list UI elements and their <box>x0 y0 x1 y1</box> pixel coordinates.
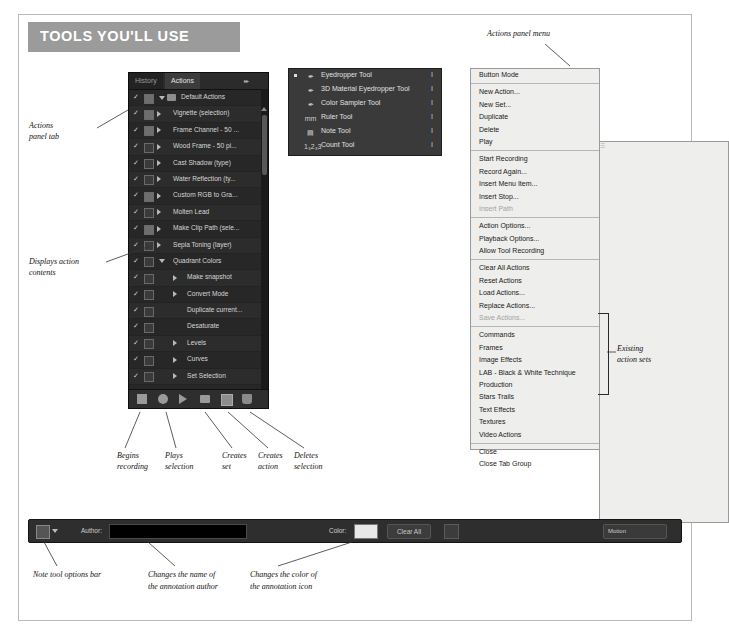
dialog-toggle-box[interactable] <box>144 339 154 349</box>
menu-item[interactable]: Duplicate <box>471 111 599 123</box>
actions-panel-toolbar[interactable] <box>129 389 268 408</box>
action-row[interactable]: ✓Desaturate <box>129 319 268 335</box>
dialog-toggle-box[interactable] <box>144 372 154 382</box>
tool-menu-item[interactable]: mmRuler ToolI <box>289 111 441 125</box>
record-circle-icon[interactable] <box>158 394 168 404</box>
expand-triangle-icon[interactable] <box>157 242 161 248</box>
chevron-down-icon[interactable] <box>52 529 58 533</box>
menu-item[interactable]: Load Actions... <box>471 287 599 299</box>
action-toggle-checkmark[interactable]: ✓ <box>132 306 140 314</box>
dialog-toggle-box[interactable] <box>144 175 154 185</box>
expand-triangle-icon[interactable] <box>173 373 177 379</box>
action-toggle-checkmark[interactable]: ✓ <box>132 126 140 134</box>
action-row[interactable]: ✓Levels <box>129 336 268 352</box>
menu-item[interactable]: Stars Trails <box>471 391 599 403</box>
action-toggle-checkmark[interactable]: ✓ <box>132 257 140 265</box>
action-row[interactable]: ✓Convert Mode <box>129 287 268 303</box>
menu-item[interactable]: Commands <box>471 329 599 341</box>
menu-item[interactable]: Reset Actions <box>471 275 599 287</box>
expand-triangle-icon[interactable] <box>173 291 177 297</box>
expand-triangle-icon[interactable] <box>173 340 177 346</box>
action-row[interactable]: ✓Frame Channel - 50 ... <box>129 123 268 139</box>
note-tool-preset-icon[interactable] <box>36 525 50 539</box>
workspace-selector[interactable]: Motion <box>603 524 667 539</box>
menu-item[interactable]: New Action... <box>471 86 599 98</box>
action-toggle-checkmark[interactable]: ✓ <box>132 355 140 363</box>
stop-square-icon[interactable] <box>137 394 147 404</box>
menu-item[interactable]: Image Effects <box>471 354 599 366</box>
action-toggle-checkmark[interactable]: ✓ <box>132 224 140 232</box>
actions-panel-menu[interactable]: Button ModeNew Action...New Set...Duplic… <box>470 68 600 450</box>
action-toggle-checkmark[interactable]: ✓ <box>132 208 140 216</box>
menu-item[interactable]: Delete <box>471 124 599 136</box>
menu-item[interactable]: Close Tab Group <box>471 458 599 470</box>
dialog-toggle-box[interactable] <box>144 307 154 317</box>
toggle-notes-panel-icon[interactable] <box>444 524 459 539</box>
tab-history[interactable]: History <box>129 73 163 89</box>
action-row[interactable]: ✓Vignette (selection) <box>129 106 268 122</box>
action-toggle-checkmark[interactable]: ✓ <box>132 372 140 380</box>
action-toggle-checkmark[interactable]: ✓ <box>132 93 140 101</box>
annotation-color-swatch[interactable] <box>354 524 378 539</box>
menu-item[interactable]: Close <box>471 446 599 458</box>
panel-menu-icon[interactable]: ☰ <box>599 141 729 523</box>
actions-scrollbar[interactable] <box>261 89 268 389</box>
menu-item[interactable]: Clear All Actions <box>471 262 599 274</box>
expand-triangle-icon[interactable] <box>159 96 165 100</box>
action-row[interactable]: ✓Curves <box>129 352 268 368</box>
dialog-toggle-box[interactable] <box>144 274 154 284</box>
scroll-up-arrow-icon[interactable] <box>261 107 267 111</box>
menu-item[interactable]: New Set... <box>471 99 599 111</box>
expand-triangle-icon[interactable] <box>159 259 165 263</box>
trash-icon[interactable] <box>242 394 252 404</box>
expand-triangle-icon[interactable] <box>157 127 161 133</box>
folder-icon[interactable] <box>200 395 210 403</box>
dialog-toggle-box[interactable] <box>144 290 154 300</box>
dialog-toggle-box[interactable] <box>144 356 154 366</box>
action-row[interactable]: ✓Set Selection <box>129 369 268 385</box>
tool-menu-item[interactable]: ▤Note ToolI <box>289 125 441 139</box>
dialog-toggle-box[interactable] <box>144 94 154 104</box>
action-toggle-checkmark[interactable]: ✓ <box>132 142 140 150</box>
actions-list[interactable]: ✓Default Actions✓Vignette (selection)✓Fr… <box>129 90 268 390</box>
play-triangle-icon[interactable] <box>179 394 187 404</box>
dialog-toggle-box[interactable] <box>144 208 154 218</box>
expand-triangle-icon[interactable] <box>157 176 161 182</box>
action-row[interactable]: ✓Duplicate current... <box>129 303 268 319</box>
action-row[interactable]: ✓Sepia Toning (layer) <box>129 238 268 254</box>
dialog-toggle-box[interactable] <box>144 159 154 169</box>
action-row[interactable]: ✓Default Actions <box>129 90 268 106</box>
menu-item[interactable]: Action Options... <box>471 220 599 232</box>
expand-triangle-icon[interactable] <box>173 357 177 363</box>
menu-item[interactable]: Replace Actions... <box>471 300 599 312</box>
expand-triangle-icon[interactable] <box>157 111 161 117</box>
scrollbar-thumb[interactable] <box>262 115 267 175</box>
expand-triangle-icon[interactable] <box>157 226 161 232</box>
menu-item[interactable]: Textures <box>471 416 599 428</box>
expand-triangle-icon[interactable] <box>157 160 161 166</box>
tool-menu-item[interactable]: ✒Color Sampler ToolI <box>289 97 441 111</box>
menu-item[interactable]: Insert Stop... <box>471 191 599 203</box>
expand-triangle-icon[interactable] <box>157 209 161 215</box>
menu-item[interactable]: Allow Tool Recording <box>471 245 599 257</box>
menu-item[interactable]: Start Recording <box>471 153 599 165</box>
menu-item[interactable]: Playback Options... <box>471 233 599 245</box>
action-row[interactable]: ✓Custom RGB to Gra... <box>129 188 268 204</box>
action-row[interactable]: ✓Wood Frame - 50 pi... <box>129 139 268 155</box>
action-toggle-checkmark[interactable]: ✓ <box>132 175 140 183</box>
tab-actions[interactable]: Actions <box>165 73 200 89</box>
menu-item[interactable]: Frames <box>471 342 599 354</box>
tool-menu-item[interactable]: 1₃2₃3Count ToolI <box>289 139 441 153</box>
action-toggle-checkmark[interactable]: ✓ <box>132 109 140 117</box>
expand-triangle-icon[interactable] <box>157 144 161 150</box>
new-page-icon[interactable] <box>221 394 233 406</box>
action-toggle-checkmark[interactable]: ✓ <box>132 241 140 249</box>
menu-item[interactable]: Record Again... <box>471 166 599 178</box>
dialog-toggle-box[interactable] <box>144 323 154 333</box>
action-toggle-checkmark[interactable]: ✓ <box>132 191 140 199</box>
dialog-toggle-box[interactable] <box>144 192 154 202</box>
menu-item[interactable]: LAB - Black & White Technique <box>471 367 599 379</box>
dialog-toggle-box[interactable] <box>144 126 154 136</box>
action-toggle-checkmark[interactable]: ✓ <box>132 273 140 281</box>
action-toggle-checkmark[interactable]: ✓ <box>132 339 140 347</box>
